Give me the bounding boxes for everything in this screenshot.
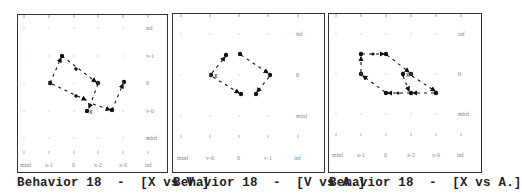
x-label: 0 — [237, 155, 240, 161]
x-label: minf — [20, 162, 31, 168]
y-label: inf — [296, 31, 303, 37]
panel-3-state-dots — [359, 52, 438, 95]
grid-dots — [24, 14, 462, 154]
y-label: v-1 — [146, 53, 154, 59]
panel-1-x-labels: minf x-1 0 x-2 x-0 inf — [20, 162, 152, 168]
panel-3-trajectory — [361, 54, 435, 93]
x-label: 0 — [72, 162, 75, 168]
x-label: x-1 — [45, 162, 53, 168]
x-label: x-0 — [432, 152, 440, 158]
panel-1-trajectory — [50, 56, 123, 110]
panel-3-x-labels: minf x-1 0 x-2 x-0 inf — [332, 152, 464, 158]
x-label: v-0 — [206, 155, 214, 161]
y-label: minf — [458, 111, 469, 117]
start-marker: x — [89, 108, 93, 115]
y-label: v-0 — [146, 108, 154, 114]
panel-3-y-labels: inf 0 minf — [458, 31, 469, 117]
x-label: inf — [294, 155, 301, 161]
x-label: x-2 — [407, 152, 415, 158]
start-marker: x — [214, 72, 218, 79]
x-label: x-0 — [119, 162, 127, 168]
panel-2-trajectory — [212, 55, 269, 93]
panel-1-state-dots — [48, 54, 126, 113]
y-label: inf — [146, 25, 153, 31]
x-label: x-1 — [357, 152, 365, 158]
x-label: minf — [177, 155, 188, 161]
x-label: minf — [332, 152, 343, 158]
x-label: inf — [457, 152, 464, 158]
panel-2-state-dots — [209, 52, 272, 96]
x-label: 0 — [384, 152, 387, 158]
caption-x-vs-a: Behavior 18 - [X vs A.] — [329, 176, 522, 190]
x-label: x-2 — [94, 162, 102, 168]
start-marker: x — [406, 71, 410, 78]
x-label: v-1 — [264, 155, 272, 161]
panel-2-x-labels: minf v-0 0 v-1 inf — [177, 155, 301, 161]
x-label: inf — [145, 162, 152, 168]
